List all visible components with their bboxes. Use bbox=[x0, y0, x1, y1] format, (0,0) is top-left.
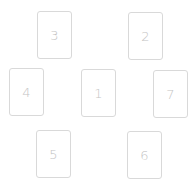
card-number: 3 bbox=[50, 29, 58, 42]
card-slot-1[interactable]: 1 bbox=[81, 69, 116, 117]
card-spread-board: 1 2 3 4 5 6 7 bbox=[0, 0, 195, 186]
card-slot-3[interactable]: 3 bbox=[37, 11, 72, 59]
card-slot-4[interactable]: 4 bbox=[9, 68, 44, 116]
card-slot-7[interactable]: 7 bbox=[153, 70, 188, 118]
card-number: 7 bbox=[166, 88, 174, 101]
card-number: 4 bbox=[22, 86, 30, 99]
card-slot-6[interactable]: 6 bbox=[127, 131, 162, 179]
card-number: 6 bbox=[140, 149, 148, 162]
card-slot-5[interactable]: 5 bbox=[36, 130, 71, 178]
card-number: 5 bbox=[49, 148, 57, 161]
card-number: 2 bbox=[141, 30, 149, 43]
card-number: 1 bbox=[94, 87, 102, 100]
card-slot-2[interactable]: 2 bbox=[128, 12, 163, 60]
